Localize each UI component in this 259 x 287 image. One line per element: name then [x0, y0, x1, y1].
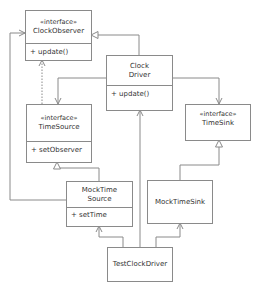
class-header: «interface» ClockObserver [26, 11, 91, 43]
operations-compartment: + update() [26, 43, 91, 60]
class-name: TestClockDriver [113, 260, 167, 269]
association-clockdriver-timesource [58, 78, 106, 104]
class-mock-time-sink[interactable]: MockTimeSink [147, 180, 213, 224]
class-mock-time-source[interactable]: MockTime Source + setTime [66, 181, 133, 227]
operation: + setObserver [31, 146, 82, 154]
class-header: TestClockDriver [108, 248, 172, 281]
class-name: TimeSink [202, 119, 234, 128]
class-time-source[interactable]: «interface» TimeSource + setObserver [26, 104, 92, 163]
realization-mocktimesink-timesink [180, 147, 219, 180]
class-name-line1: Clock [130, 62, 149, 71]
class-name-line2: Source [87, 195, 111, 204]
association-testclockdriver-mocktimesource [99, 226, 123, 247]
class-name-line1: MockTime [82, 186, 117, 195]
class-name: MockTimeSink [155, 198, 205, 207]
class-clock-driver[interactable]: Clock Driver + update() [106, 55, 173, 111]
association-testclockdriver-mocktimesink [156, 223, 180, 247]
association-clockdriver-timesink [172, 78, 219, 104]
class-header: MockTime Source [67, 182, 132, 207]
class-header: «interface» TimeSource [27, 105, 91, 141]
operation: + update() [30, 48, 68, 56]
class-test-clock-driver[interactable]: TestClockDriver [107, 247, 173, 282]
class-name-line2: Driver [129, 71, 151, 80]
class-header: «interface» TimeSink [186, 105, 250, 131]
operation: + update() [111, 90, 149, 98]
stereotype-label: «interface» [200, 110, 237, 119]
class-header: MockTimeSink [148, 181, 212, 223]
class-name: TimeSource [38, 123, 79, 132]
stereotype-label: «interface» [41, 114, 78, 123]
class-header: Clock Driver [107, 56, 172, 85]
operations-compartment: + setTime [67, 207, 132, 226]
class-name: ClockObserver [33, 27, 84, 36]
class-time-sink[interactable]: «interface» TimeSink [185, 104, 251, 141]
stereotype-label: «interface» [40, 18, 77, 27]
operation: + setTime [71, 211, 107, 219]
realization-clockdriver-clockobserver [98, 35, 139, 55]
operations-compartment: + update() [107, 85, 172, 110]
class-clock-observer[interactable]: «interface» ClockObserver + update() [25, 10, 92, 61]
realization-mocktimesource-timesource [57, 168, 99, 181]
operations-compartment: + setObserver [27, 141, 91, 162]
